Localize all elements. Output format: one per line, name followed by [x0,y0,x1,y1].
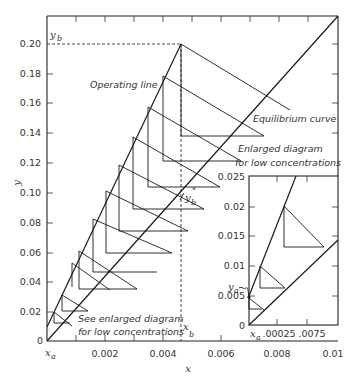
y-tick-label: 0.14 [20,127,41,138]
x-b-subscript: b [189,330,194,339]
x-tick-label: 0.002 [91,348,118,359]
inset-y-tick-label: 0.01 [224,260,245,271]
see-note-line1: See enlarged diagram [78,313,183,324]
y-tick-labels: 0.20 0.18 0.16 0.14 0.12 0.10 0.08 0.06 … [20,38,43,346]
y-b-star-subscript: b [191,198,196,207]
y-tick-label: 0.08 [20,217,41,228]
x-tick-label: 0.004 [149,348,176,359]
see-note-line2: for low concentrations [78,326,184,337]
mccabe-thiele-diagram: 0.20 0.18 0.16 0.14 0.12 0.10 0.08 0.06 … [0,0,358,379]
y-a-symbol: y [227,281,234,292]
x-tick-label: 0.008 [263,348,290,359]
y-b-label: y b [49,29,62,43]
inset-y-tick-label: 0.015 [218,230,245,241]
inset-x-tick-label: .00025 [262,328,295,339]
x-a-subscript: a [51,352,56,361]
x-axis-label: x [185,363,191,374]
inset-y-tick-labels: 0.025 0.02 0.015 0.01 0.005 0 [218,171,245,331]
inset-x-a-subscript: a [256,333,261,342]
inset-x-a-label: x a [250,328,261,342]
enlarged-note-line2: for low concentrations [235,157,341,168]
inset-y-tick-label: 0.025 [218,171,245,182]
x-b-label: x b [183,321,194,339]
enlarged-note-line1: Enlarged diagram [238,143,323,154]
y-a-subscript: a [234,286,239,295]
inset-y-tick-label: 0 [239,320,245,331]
y-b-subscript: b [57,34,62,43]
y-tick-label: 0.10 [20,187,41,198]
y-tick-label: 0.12 [20,157,41,168]
y-tick-label: 0.20 [20,38,41,49]
inset-x-tick-label: .0075 [298,328,325,339]
y-tick-label: 0.02 [20,306,41,317]
y-b-symbol: y [49,29,56,40]
y-tick-label: 0.18 [20,68,41,79]
x-a-label: x a [45,347,56,361]
x-tick-labels: 0.002 0.004 0.006 0.008 0.01 [91,348,343,359]
y-tick-label: 0.16 [20,97,41,108]
x-tick-label: 0.006 [207,348,234,359]
y-b-star-superscript: * [192,186,196,195]
operating-line-label: Operating line [90,79,158,90]
y-b-star-symbol: y [184,192,191,203]
y-tick-label: 0.06 [20,247,41,258]
y-tick-label: 0 [37,335,43,346]
y-axis-label: y [11,180,22,187]
top-ticks [76,16,308,22]
x-tick-label: 0.01 [322,348,343,359]
inset-x-tick-labels: .00025 .0075 [262,328,325,339]
equilibrium-curve-label: Equilibrium curve [253,113,337,124]
y-tick-label: 0.04 [20,276,41,287]
inset-plot [247,176,338,325]
inset-y-tick-label: 0.02 [224,201,245,212]
